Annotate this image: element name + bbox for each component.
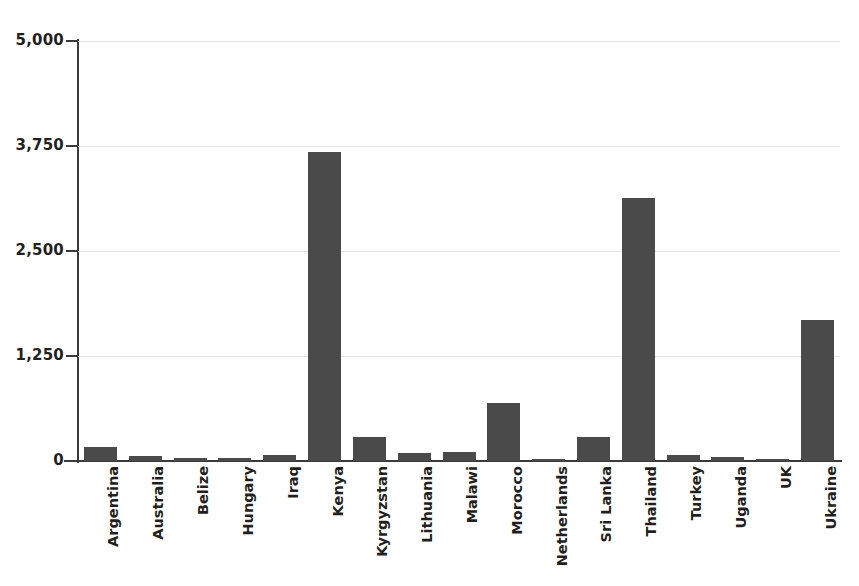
x-axis-tick-label: Sri Lanka bbox=[599, 466, 614, 542]
y-axis-tick-label: 1,250 bbox=[2, 348, 64, 363]
bar[interactable] bbox=[577, 437, 610, 461]
gridline bbox=[78, 41, 840, 42]
y-axis-tick-mark bbox=[66, 250, 78, 252]
bar[interactable] bbox=[801, 320, 834, 461]
bar[interactable] bbox=[308, 152, 341, 461]
y-axis-tick-mark bbox=[66, 40, 78, 42]
bar[interactable] bbox=[667, 455, 700, 461]
x-axis-tick-label: Kyrgyzstan bbox=[375, 466, 390, 557]
y-axis-tick-label: 2,500 bbox=[2, 243, 64, 258]
y-axis-tick-label: 5,000 bbox=[2, 33, 64, 48]
bar[interactable] bbox=[487, 403, 520, 461]
y-axis-tick-label: 3,750 bbox=[2, 138, 64, 153]
x-axis-tick-label: Ukraine bbox=[824, 466, 839, 529]
x-axis-tick-label: Netherlands bbox=[555, 466, 570, 566]
bar[interactable] bbox=[711, 457, 744, 461]
bar[interactable] bbox=[174, 458, 207, 461]
x-axis-tick-label: Argentina bbox=[106, 466, 121, 547]
x-axis-tick-labels: ArgentinaAustraliaBelizeHungaryIraqKenya… bbox=[78, 466, 840, 586]
bar[interactable] bbox=[84, 447, 117, 461]
x-axis-tick-label: UK bbox=[779, 466, 794, 489]
x-axis-tick-label: Belize bbox=[196, 466, 211, 515]
bar[interactable] bbox=[622, 198, 655, 461]
x-axis-tick-label: Malawi bbox=[465, 466, 480, 523]
x-axis-tick-label: Hungary bbox=[241, 466, 256, 536]
y-axis-tick-labels: 01,2502,5003,7505,000 bbox=[0, 0, 64, 586]
gridline bbox=[78, 146, 840, 147]
x-axis-tick-label: Turkey bbox=[689, 466, 704, 520]
x-axis-tick-label: Morocco bbox=[510, 466, 525, 535]
bar[interactable] bbox=[398, 453, 431, 461]
y-axis-tick-mark bbox=[66, 145, 78, 147]
bar-chart: 01,2502,5003,7505,000 ArgentinaAustralia… bbox=[0, 0, 859, 586]
x-axis-tick-label: Uganda bbox=[734, 466, 749, 528]
bar[interactable] bbox=[263, 455, 296, 461]
gridline bbox=[78, 356, 840, 357]
x-axis-tick-label: Australia bbox=[151, 466, 166, 540]
plot-area bbox=[78, 41, 840, 461]
x-axis-tick-label: Kenya bbox=[331, 466, 346, 516]
bar[interactable] bbox=[443, 452, 476, 461]
bar[interactable] bbox=[532, 459, 565, 461]
y-axis-tick-mark bbox=[66, 460, 78, 462]
y-axis-tick-label: 0 bbox=[2, 453, 64, 468]
bar[interactable] bbox=[756, 459, 789, 461]
y-axis-tick-mark bbox=[66, 355, 78, 357]
x-axis-tick-label: Iraq bbox=[286, 466, 301, 499]
bar[interactable] bbox=[218, 458, 251, 461]
bar[interactable] bbox=[129, 456, 162, 461]
x-axis-tick-label: Lithuania bbox=[420, 466, 435, 543]
gridline bbox=[78, 251, 840, 252]
bar[interactable] bbox=[353, 437, 386, 461]
x-axis-tick-label: Thailand bbox=[644, 466, 659, 536]
